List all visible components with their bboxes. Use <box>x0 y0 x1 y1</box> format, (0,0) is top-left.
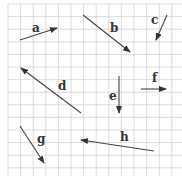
vector-label: c <box>151 13 158 27</box>
vector-label: a <box>32 21 40 35</box>
vector-diagram: abcdefgh <box>0 0 182 176</box>
vector-label: g <box>37 132 46 146</box>
vector-arrow-icon <box>21 68 81 113</box>
vector-label: f <box>152 71 158 85</box>
vector-diagram-canvas: abcdefgh <box>0 0 182 176</box>
vector-label: h <box>120 130 129 144</box>
vector-label: d <box>58 79 67 93</box>
vector-a: a <box>20 21 57 40</box>
vector-d: d <box>21 68 81 113</box>
vector-arrow-icon <box>81 140 154 151</box>
vector-e: e <box>109 76 119 113</box>
vector-arrow-icon <box>83 15 130 52</box>
vector-label: b <box>110 21 118 35</box>
vector-b: b <box>83 15 130 52</box>
vector-h: h <box>81 130 154 151</box>
vector-label: e <box>109 89 117 103</box>
vectors: abcdefgh <box>20 13 167 163</box>
